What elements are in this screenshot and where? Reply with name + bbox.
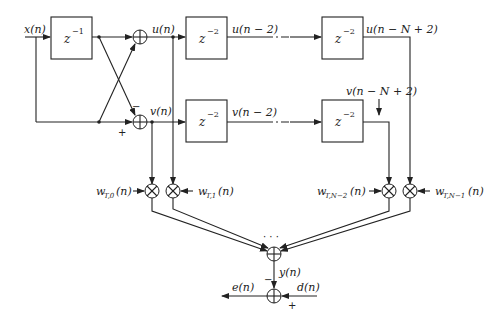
v-label: v(n) [150, 105, 172, 118]
cross-line-up [99, 44, 135, 122]
delay-block-z1 [51, 17, 92, 59]
sign-minus-v: − [132, 101, 140, 112]
delay-block-uN [322, 17, 363, 59]
delay-vN-base: z [334, 115, 342, 129]
delay-v1-base: z [198, 115, 206, 129]
summation-node [267, 247, 281, 261]
v-delayed-label: v(n − 2) [232, 106, 277, 119]
delay-vN-exp: −2 [343, 110, 355, 119]
error-label: e(n) [232, 281, 254, 294]
svg-text:T,0: T,0 [104, 192, 115, 200]
delay-block-v1 [186, 100, 227, 142]
svg-text:(n): (n) [350, 185, 366, 198]
product-line-N-1 [281, 198, 410, 251]
delay-block-vN [322, 100, 363, 142]
delay-u1-exp: −2 [207, 27, 219, 36]
svg-text:T,N−2: T,N−2 [325, 192, 348, 200]
u-delayed-label: u(n − 2) [232, 23, 278, 36]
delay-uN-base: z [334, 32, 342, 46]
svg-text:(n): (n) [218, 185, 234, 198]
input-label: x(n) [24, 23, 46, 36]
multiplier-N-1 [403, 184, 417, 198]
svg-text:T,1: T,1 [206, 192, 216, 200]
sign-minus-out: − [264, 274, 272, 285]
svg-text:(n): (n) [468, 185, 484, 198]
multiplier-N-2 [382, 184, 396, 198]
block-diagram: x(n) z −1 − + u(n) z −2 u(n − 2) z −2 u(… [0, 0, 502, 323]
delay-z1-exp: −1 [72, 27, 84, 36]
delay-u1-base: z [198, 32, 206, 46]
svg-text:(n): (n) [116, 185, 132, 198]
delay-v1-exp: −2 [207, 110, 219, 119]
desired-label: d(n) [297, 281, 320, 294]
sign-plus-v: + [118, 127, 126, 138]
u-last-label: u(n − N + 2) [366, 23, 438, 36]
weight-label-N-2: w T,N−2 (n) [317, 185, 366, 200]
delay-block-u1 [186, 17, 227, 59]
adder-u [133, 30, 147, 44]
cross-line-down [99, 37, 135, 115]
delay-z1-base: z [63, 32, 71, 46]
v-last-label: v(n − N + 2) [346, 85, 417, 98]
weight-label-0: w T,0 (n) [96, 185, 132, 200]
u-label: u(n) [152, 23, 175, 36]
v-last-line [363, 122, 389, 184]
weight-label-N-1: w T,N−1 (n) [435, 185, 484, 200]
svg-text:T,N−1: T,N−1 [443, 192, 465, 200]
error-adder [267, 289, 281, 303]
multiplier-0 [145, 184, 159, 198]
ellipsis: · · · [263, 231, 279, 242]
weight-label-1: w T,1 (n) [198, 185, 234, 200]
input-section: x(n) z −1 [24, 17, 135, 124]
adder-v [133, 115, 147, 129]
u-last-line [363, 37, 410, 184]
delay-uN-exp: −2 [343, 27, 355, 36]
multiplier-1 [166, 184, 180, 198]
sign-plus-out: + [288, 300, 296, 311]
output-label: y(n) [278, 266, 301, 279]
